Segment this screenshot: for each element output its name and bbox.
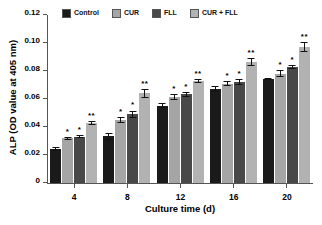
error-bar-cap-bottom [52, 150, 59, 151]
significance-marker: ** [301, 33, 308, 40]
y-axis-tick: 0.12 [43, 14, 47, 15]
error-bar-cap-top [76, 135, 83, 136]
bar-rect: * [234, 82, 245, 183]
error-bar [76, 135, 83, 138]
error-bar-cap-bottom [141, 97, 148, 98]
y-axis-tick-label: 0.02 [24, 148, 40, 157]
bar-group-20d: **** [261, 47, 311, 183]
bar-cur-16d: * [222, 84, 233, 183]
bar-fll-20d: * [287, 67, 298, 183]
error-bar-cap-bottom [195, 82, 202, 83]
error-bar [301, 42, 308, 52]
error-bar [212, 86, 219, 92]
error-bar [289, 65, 296, 69]
x-axis-tick-label: 16 [229, 192, 238, 202]
y-axis-tick-label: 0.06 [24, 92, 40, 101]
error-bar-cap-bottom [236, 84, 243, 85]
error-bar-cap-top [277, 70, 284, 71]
bar-control-20d [263, 79, 274, 183]
bar-rect: ** [193, 81, 204, 183]
significance-marker: ** [194, 70, 201, 77]
error-bar-cap-bottom [301, 51, 308, 52]
x-axis-tick-label: 12 [176, 192, 185, 202]
alp-bar-chart-figure: ControlCURFLLCUR + FLL ALP (OD value at … [0, 0, 322, 225]
error-bar-cap-top [248, 58, 255, 59]
plot-area: 00.020.040.060.080.100.124****8****12***… [47, 15, 313, 184]
bar-rect: * [222, 84, 233, 183]
error-bar [141, 89, 148, 98]
error-bar [236, 79, 243, 85]
error-bar [105, 133, 112, 139]
y-axis-tick: 0.08 [43, 70, 47, 71]
bar-rect: * [127, 114, 138, 183]
x-axis-tick: 16 [233, 184, 234, 188]
error-bar-cap-bottom [105, 139, 112, 140]
error-bar-cap-bottom [212, 91, 219, 92]
bar-cur-20d: * [275, 74, 286, 183]
bar-rect [50, 149, 61, 183]
bar-rect: ** [246, 62, 257, 183]
bar-rect: * [62, 138, 73, 183]
y-axis-tick-label: 0.08 [24, 64, 40, 73]
significance-marker: * [225, 72, 229, 79]
significance-marker: * [237, 70, 241, 77]
error-bar-cap-top [212, 86, 219, 87]
bar-fll-16d: * [234, 82, 245, 183]
y-axis-tick: 0 [43, 182, 47, 183]
significance-marker: * [119, 108, 123, 115]
y-axis-tick-label: 0.04 [24, 120, 40, 129]
bar-group-8d: **** [102, 93, 152, 183]
y-axis-tick: 0.04 [43, 126, 47, 127]
bar-cur-4d: * [62, 138, 73, 183]
error-bar-cap-bottom [159, 107, 166, 108]
bar-rect: ** [86, 123, 97, 183]
bar-group-12d: **** [155, 81, 205, 183]
x-axis-tick: 4 [74, 184, 75, 188]
error-bar-cap-bottom [129, 117, 136, 118]
significance-marker: * [279, 61, 283, 68]
bar-fll-12d: * [181, 94, 192, 183]
error-bar [248, 58, 255, 66]
bar-rect: * [115, 120, 126, 183]
bar-rect: * [181, 94, 192, 183]
significance-marker: * [78, 126, 82, 133]
significance-marker: * [184, 83, 188, 90]
bar-control-4d [50, 149, 61, 183]
error-bar-cap-top [236, 79, 243, 80]
y-axis-tick: 0.02 [43, 154, 47, 155]
bar-rect [157, 106, 168, 183]
bar-rect: * [287, 67, 298, 183]
bar-control-12d [157, 106, 168, 183]
error-bar-cap-top [141, 89, 148, 90]
significance-marker: ** [141, 80, 148, 87]
bar-rect [210, 89, 221, 183]
x-axis-tick: 8 [127, 184, 128, 188]
error-bar-cap-top [171, 94, 178, 95]
bar-rect [103, 136, 114, 183]
bar-fll-4d: * [74, 137, 85, 183]
bar-cur-fll-20d: ** [299, 47, 310, 183]
error-bar-cap-top [52, 147, 59, 148]
significance-marker: * [66, 128, 70, 135]
error-bar-cap-top [289, 65, 296, 66]
significance-marker: ** [88, 112, 95, 119]
error-bar [171, 94, 178, 99]
significance-marker: * [131, 101, 135, 108]
bar-rect: * [275, 74, 286, 183]
error-bar-cap-top [224, 81, 231, 82]
bar-cur-fll-12d: ** [193, 81, 204, 183]
x-axis-tick: 20 [286, 184, 287, 188]
error-bar-cap-bottom [88, 124, 95, 125]
error-bar [277, 70, 284, 77]
error-bar [129, 111, 136, 118]
y-axis-tick-label: 0 [36, 176, 40, 185]
x-axis-tick-label: 20 [282, 192, 291, 202]
error-bar-cap-bottom [171, 99, 178, 100]
bar-rect: ** [139, 93, 150, 183]
y-axis-title: ALP (OD value at 405 nm) [7, 10, 18, 186]
x-axis-tick-label: 8 [125, 192, 130, 202]
error-bar [195, 79, 202, 83]
bar-control-16d [210, 89, 221, 183]
bar-group-4d: **** [49, 123, 99, 183]
error-bar-cap-bottom [277, 76, 284, 77]
